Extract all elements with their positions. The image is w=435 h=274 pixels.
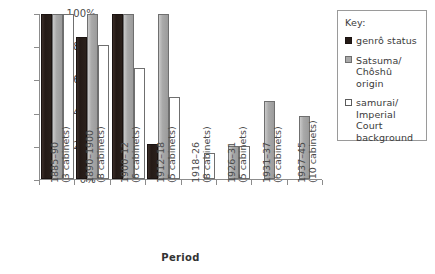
legend-title: Key: — [345, 17, 421, 28]
legend-item[interactable]: Satsuma/Chôshû origin — [345, 55, 421, 90]
x-tick-mark — [322, 180, 323, 185]
legend-item[interactable]: samurai/Imperial Courtbackground — [345, 97, 421, 143]
legend-swatch-samurai-icon — [345, 99, 352, 106]
x-axis-label-period: 1918–26 — [191, 142, 201, 183]
x-axis-label-period: 1931–37 — [262, 142, 272, 183]
bar-chart: 100% 80% 60% 40% 20% 0% 1885–90(3 cabine… — [0, 0, 435, 274]
legend-swatch-origin-icon — [345, 56, 352, 63]
x-axis-label: 1900–12(6 cabinets) — [110, 180, 145, 252]
legend-label: samurai/Imperial Courtbackground — [356, 97, 421, 143]
x-axis-label: 1890–1900(8 cabinets) — [74, 180, 109, 252]
x-axis-label-cabinets: (5 cabinets) — [238, 126, 248, 183]
x-axis-label-period: 1912–18 — [156, 142, 166, 183]
legend-label: genrô status — [356, 35, 417, 47]
x-axis-title: Period — [39, 252, 322, 263]
legend-item[interactable]: genrô status — [345, 35, 421, 47]
x-axis-label: 1885–90(3 cabinets) — [39, 180, 74, 252]
legend-label: Satsuma/Chôshû origin — [356, 55, 421, 90]
x-axis-label-cabinets: (10 cabinets) — [308, 120, 318, 183]
x-axis-label: 1912–18(5 cabinets) — [145, 180, 180, 252]
x-axis-label-cabinets: (3 cabinets) — [61, 126, 71, 183]
x-axis-label-cabinets: (5 cabinets) — [167, 126, 177, 183]
x-axis-labels: 1885–90(3 cabinets)1890–1900(8 cabinets)… — [39, 180, 322, 252]
x-axis-label-period: 1900–12 — [120, 142, 130, 183]
x-axis-label-cabinets: (6 cabinets) — [273, 126, 283, 183]
x-axis-label-cabinets: (8 cabinets) — [202, 126, 212, 183]
x-axis-label-period: 1885–90 — [50, 142, 60, 183]
x-axis-label-period: 1937–45 — [297, 142, 307, 183]
legend-swatch-genro-icon — [345, 37, 352, 44]
x-axis-label: 1937–45(10 cabinets) — [287, 180, 322, 252]
legend-items: genrô statusSatsuma/Chôshû originsamurai… — [345, 35, 421, 143]
x-axis-label-cabinets: (6 cabinets) — [131, 126, 141, 183]
legend: Key: genrô statusSatsuma/Chôshû originsa… — [337, 10, 427, 141]
x-axis-label-period: 1926–31 — [227, 142, 237, 183]
x-axis-label-cabinets: (8 cabinets) — [96, 126, 106, 183]
x-axis-label-period: 1890–1900 — [85, 130, 95, 183]
x-axis-label: 1931–37(6 cabinets) — [251, 180, 286, 252]
x-axis-label: 1918–26(8 cabinets) — [181, 180, 216, 252]
x-axis-label: 1926–31(5 cabinets) — [216, 180, 251, 252]
